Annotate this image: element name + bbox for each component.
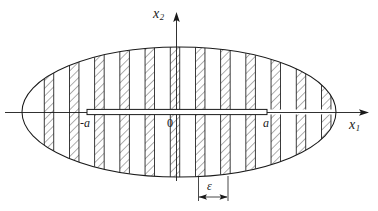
epsilon-label: ε [207,180,212,192]
crack-in-elliptical-plate-figure: x2 x1 -a 0 a ε [0,0,378,211]
crack-slot [87,109,267,114]
origin-label: 0 [167,117,173,129]
crack-left-tip-label: -a [80,117,90,129]
x1-axis-label: x1 [349,118,360,133]
x2-axis-label: x2 [153,7,164,22]
hatched-strip [44,43,54,181]
figure-canvas [0,0,378,211]
hatched-strip [69,43,79,181]
crack-right-tip-label: a [263,117,269,129]
